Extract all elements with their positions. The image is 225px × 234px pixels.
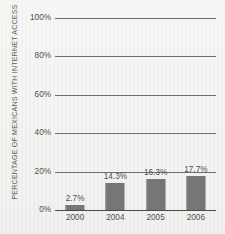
y-tick-label: 20% [35, 167, 51, 176]
x-tick-label: 2004 [106, 213, 124, 222]
bar-group: 2.7%2000 [55, 18, 95, 210]
x-tick-label: 2000 [66, 213, 84, 222]
x-tick-label: 2005 [147, 213, 165, 222]
bar-group: 17.7%2006 [176, 18, 216, 210]
x-tick-label: 2006 [187, 213, 205, 222]
y-tick-label: 40% [35, 128, 51, 137]
plot-area: 100%80%60%40%20%0% 2.7%200014.3%200416.3… [55, 18, 216, 210]
y-axis-title: PERCENTAGE OF MEXICANS WITH INTERNET ACC… [11, 0, 19, 207]
y-tick-label: 0% [39, 205, 51, 214]
bar[interactable] [186, 176, 205, 210]
x-axis-line [55, 210, 216, 211]
y-tick-label: 80% [35, 51, 51, 60]
bar-value-label: 2.7% [66, 194, 85, 203]
bar[interactable] [106, 183, 125, 210]
bar[interactable] [66, 205, 85, 210]
bar-value-label: 16.3% [144, 168, 167, 177]
chart-container: PERCENTAGE OF MEXICANS WITH INTERNET ACC… [0, 0, 225, 234]
bar-group: 14.3%2004 [95, 18, 135, 210]
bar-value-label: 17.7% [184, 165, 207, 174]
y-tick-label: 60% [35, 90, 51, 99]
bars: 2.7%200014.3%200416.3%200517.7%2006 [55, 18, 216, 210]
bar[interactable] [146, 179, 165, 210]
bar-value-label: 14.3% [104, 172, 127, 181]
bar-group: 16.3%2005 [136, 18, 176, 210]
y-tick-label: 100% [30, 13, 51, 22]
